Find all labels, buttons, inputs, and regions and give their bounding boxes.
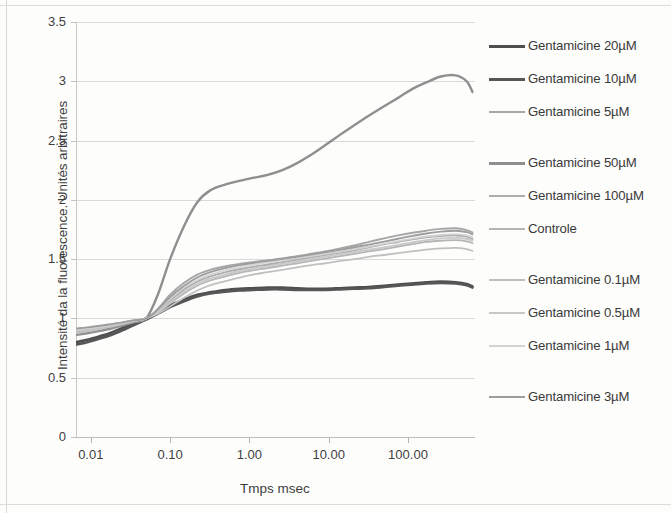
x-tick-mark-major <box>408 437 409 443</box>
legend-label: Gentamicine 100µM <box>528 188 671 205</box>
legend-label: Gentamicine 0.5µM <box>528 305 671 322</box>
legend-item[interactable]: Gentamicine 5µM <box>489 104 671 121</box>
legend-color-swatch <box>489 162 525 165</box>
legend-color-swatch <box>489 45 525 48</box>
y-tick-label: 0.5 <box>26 371 66 384</box>
y-tick-mark <box>71 437 76 438</box>
series-line <box>76 240 472 332</box>
y-tick-mark <box>71 200 76 201</box>
x-tick-mark-major <box>91 437 92 443</box>
legend-color-swatch <box>489 312 525 314</box>
series-line <box>76 234 472 330</box>
y-tick-mark <box>71 318 76 319</box>
y-tick-mark <box>71 141 76 142</box>
legend-color-swatch <box>489 195 525 197</box>
legend-item[interactable]: Gentamicine 20µM <box>489 38 671 55</box>
series-line <box>76 231 472 329</box>
x-axis-title: Tmps msec <box>75 481 475 496</box>
legend-color-swatch <box>489 228 525 230</box>
y-tick-label: 1.5 <box>26 252 66 265</box>
legend-item[interactable]: Gentamicine 0.5µM <box>489 305 671 322</box>
legend-item[interactable]: Controle <box>489 221 671 238</box>
legend-item[interactable]: Gentamicine 3µM <box>489 389 671 406</box>
legend-label: Gentamicine 50µM <box>528 155 671 172</box>
x-tick-mark-major <box>329 437 330 443</box>
legend-label: Controle <box>528 221 671 238</box>
y-tick-mark <box>71 22 76 23</box>
series-line <box>76 282 472 342</box>
legend-color-swatch <box>489 345 525 347</box>
y-tick-label: 3 <box>26 74 66 87</box>
fluorescence-line-chart: Intensité da la fluorescence. Unités arb… <box>0 0 671 513</box>
x-tick-label: 10.00 <box>289 448 369 461</box>
y-tick-label: 0 <box>26 430 66 443</box>
series-line <box>76 75 472 335</box>
x-tick-label: 1.00 <box>209 448 289 461</box>
legend-item[interactable]: Gentamicine 10µM <box>489 71 671 88</box>
legend-item[interactable]: Gentamicine 100µM <box>489 188 671 205</box>
y-tick-label: 2.5 <box>26 134 66 147</box>
y-tick-mark <box>71 378 76 379</box>
x-tick-label: 0.01 <box>51 448 131 461</box>
x-tick-label: 0.10 <box>130 448 210 461</box>
legend-item[interactable]: Gentamicine 50µM <box>489 155 671 172</box>
y-tick-label: 2 <box>26 193 66 206</box>
y-tick-mark <box>71 259 76 260</box>
legend-label: Gentamicine 5µM <box>528 104 671 121</box>
legend-color-swatch <box>489 111 525 113</box>
y-tick-label: 3.5 <box>26 15 66 28</box>
series-line <box>76 283 472 345</box>
legend-color-swatch <box>489 396 525 398</box>
legend-label: Gentamicine 10µM <box>528 71 671 88</box>
legend-color-swatch <box>489 78 525 81</box>
y-tick-mark <box>71 81 76 82</box>
legend-item[interactable]: Gentamicine 1µM <box>489 338 671 355</box>
legend-color-swatch <box>489 279 525 281</box>
x-tick-mark-major <box>170 437 171 443</box>
legend-item[interactable]: Gentamicine 0.1µM <box>489 272 671 289</box>
legend-label: Gentamicine 0.1µM <box>528 272 671 289</box>
y-tick-label: 1 <box>26 311 66 324</box>
legend-label: Gentamicine 3µM <box>528 389 671 406</box>
legend-label: Gentamicine 20µM <box>528 38 671 55</box>
x-tick-label: 100.00 <box>368 448 448 461</box>
series-lines <box>76 22 475 438</box>
x-tick-mark-major <box>249 437 250 443</box>
legend-label: Gentamicine 1µM <box>528 338 671 355</box>
